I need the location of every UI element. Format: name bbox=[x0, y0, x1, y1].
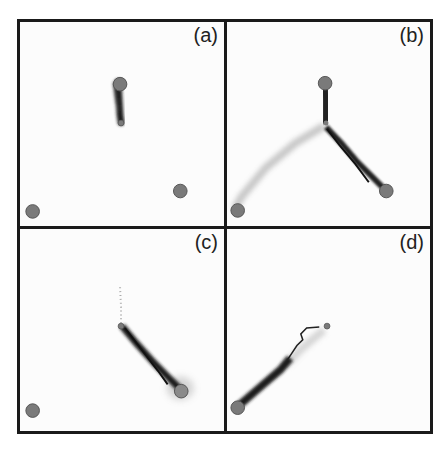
panel-a-plot bbox=[20, 22, 224, 226]
node-target-right-icon bbox=[174, 384, 188, 398]
panel-label-b: (b) bbox=[400, 23, 424, 47]
panel-b: (b) bbox=[224, 19, 433, 229]
panel-c-plot bbox=[20, 229, 224, 431]
panel-label-c: (c) bbox=[195, 230, 218, 254]
panel-d-plot bbox=[227, 229, 430, 431]
node-target-left-icon bbox=[26, 404, 40, 418]
figure-grid: (a) (b) bbox=[17, 19, 433, 434]
panel-a: (a) bbox=[17, 19, 227, 229]
panel-b-plot bbox=[227, 22, 430, 226]
node-start-icon bbox=[118, 323, 124, 329]
node-start-icon bbox=[324, 323, 330, 329]
node-target-right-icon bbox=[379, 184, 393, 198]
trail-c bbox=[120, 287, 194, 400]
node-target-left-icon bbox=[231, 401, 245, 415]
node-start-icon bbox=[324, 121, 329, 126]
node-target-left-icon bbox=[231, 204, 245, 218]
node-start-icon bbox=[118, 120, 124, 126]
node-source-icon bbox=[113, 77, 127, 91]
node-target-left-icon bbox=[26, 205, 40, 219]
panel-label-d: (d) bbox=[400, 230, 424, 254]
trail-b bbox=[235, 80, 385, 208]
panel-c: (c) bbox=[17, 226, 227, 434]
trail-d bbox=[239, 327, 324, 406]
node-target-right-icon bbox=[173, 184, 187, 198]
panel-label-a: (a) bbox=[194, 23, 218, 47]
node-source-icon bbox=[318, 76, 332, 90]
panel-d: (d) bbox=[224, 226, 433, 434]
